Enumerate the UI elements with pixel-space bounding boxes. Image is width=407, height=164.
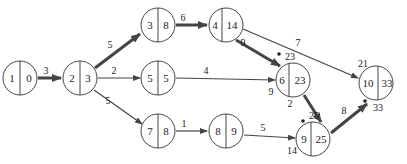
critical-dot-node10	[363, 99, 367, 103]
node-8-label: 8	[215, 125, 221, 137]
nodes: 1 0 2 3 3 8 4 14 5 5	[3, 8, 393, 156]
node-5-label: 5	[147, 72, 153, 84]
node-2: 2 3	[63, 61, 97, 95]
node-10-value: 33	[382, 77, 394, 89]
node-6-value: 23	[295, 74, 307, 86]
node-10-label: 10	[363, 77, 375, 89]
critical-dot-node6	[277, 52, 281, 56]
edge-label-1-2: 3	[44, 65, 49, 76]
edge-label-3-4: 6	[181, 12, 186, 23]
edge-2-7	[94, 90, 142, 124]
edge-9-10	[331, 104, 367, 133]
node-4: 4 14	[209, 8, 243, 42]
node-3: 3 8	[141, 8, 175, 42]
edge-label-2-5: 2	[112, 65, 117, 76]
node-1-value: 0	[26, 72, 32, 84]
edge-5-6	[176, 78, 275, 80]
annotation-node6-other: 9	[269, 86, 274, 97]
annotation-node9-other: 14	[287, 145, 297, 156]
edge-label-2-7: 5	[106, 95, 111, 106]
edge-2-3	[95, 34, 140, 68]
edge-label-6-9: 2	[288, 98, 293, 109]
node-2-value: 3	[85, 72, 91, 84]
node-5: 5 5	[141, 61, 175, 95]
node-8: 8 9	[209, 114, 243, 148]
node-3-label: 3	[147, 19, 153, 31]
node-9-label: 9	[301, 133, 307, 145]
node-3-value: 8	[163, 19, 169, 31]
annotation-node6-critical: 23	[285, 51, 295, 62]
annotation-node9-critical: 25	[309, 110, 319, 121]
node-1-label: 1	[9, 72, 15, 84]
node-7-value: 8	[163, 125, 169, 137]
node-5-value: 5	[163, 72, 169, 84]
network-diagram: 3 5 2 5 6 9 7 4 1 5 2 8 23 9 25 14 21 3	[0, 0, 407, 164]
edge-label-7-8: 1	[182, 118, 187, 129]
node-1: 1 0	[3, 61, 37, 95]
annotation-node10-critical: 33	[373, 102, 383, 113]
node-4-value: 14	[227, 19, 239, 31]
node-9-value: 25	[316, 133, 328, 145]
node-8-value: 9	[231, 125, 237, 137]
node-9: 9 25	[296, 122, 330, 156]
edge-label-2-3: 5	[108, 39, 113, 50]
critical-dot-node9	[301, 119, 305, 123]
node-6-label: 6	[279, 74, 285, 86]
node-7-label: 7	[147, 125, 153, 137]
edge-label-5-6: 4	[204, 65, 209, 76]
node-10: 10 33	[359, 66, 393, 100]
edge-label-4-6: 9	[241, 37, 246, 48]
edge-label-8-9: 5	[261, 122, 266, 133]
edge-label-9-10: 8	[342, 105, 347, 116]
node-6: 6 23	[276, 63, 310, 97]
edge-label-4-10: 7	[296, 37, 301, 48]
annotation-node10-other: 21	[358, 58, 368, 69]
node-4-label: 4	[212, 19, 218, 31]
node-7: 7 8	[141, 114, 175, 148]
node-2-label: 2	[69, 72, 75, 84]
edge-8-9	[244, 135, 295, 138]
